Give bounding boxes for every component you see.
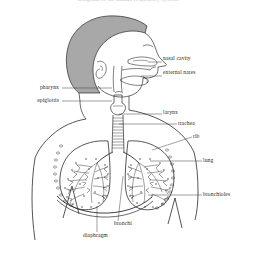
respiratory-system-figure: Diagram of the human respiratory system xyxy=(0,0,256,257)
neck-back-line xyxy=(79,93,86,119)
label-pharynx: pharynx xyxy=(0,85,59,91)
label-bronchi: bronchi xyxy=(114,221,132,227)
label-larynx: larynx xyxy=(163,110,178,116)
nasal-cavity-chamber xyxy=(128,57,157,66)
nasal-cavity-turbinate xyxy=(133,60,148,61)
left-shoulder-outline xyxy=(35,119,86,158)
hair-shape xyxy=(66,16,147,93)
leader-rib xyxy=(152,137,192,150)
label-epiglottis: epiglottis xyxy=(0,98,59,104)
label-nasal-cavity: nasal cavity xyxy=(163,56,191,62)
left-arm-outer-line xyxy=(32,158,35,240)
left-lung-outline xyxy=(60,141,110,210)
label-bronchioles: bronchioles xyxy=(203,192,230,198)
eyebrow-line xyxy=(143,45,153,47)
leader-bronchi xyxy=(118,176,123,221)
label-diaphragm: diaphragm xyxy=(83,233,108,239)
label-rib: rib xyxy=(193,134,200,140)
anatomy-illustration xyxy=(0,0,256,257)
pharynx-cavity xyxy=(113,66,122,92)
right-bronchial-tree xyxy=(128,163,170,203)
right-arm-outer-line xyxy=(194,152,198,220)
nostril-line xyxy=(150,67,156,70)
larynx-shape xyxy=(111,95,126,115)
left-primary-bronchus xyxy=(97,152,113,163)
ear-shape xyxy=(96,61,106,78)
trachea-cartilage-rings xyxy=(112,118,124,148)
label-external-nares: external nares xyxy=(163,70,196,76)
right-armpit-notch xyxy=(168,198,182,228)
ear-inner-line xyxy=(100,66,102,71)
right-primary-bronchus xyxy=(123,152,139,163)
label-lung: lung xyxy=(203,158,213,164)
right-shoulder-outline xyxy=(129,110,194,152)
trachea-tube xyxy=(112,115,124,152)
label-trachea: trachea xyxy=(178,121,195,127)
left-bronchial-tree xyxy=(66,163,108,203)
hard-palate-line xyxy=(122,69,150,71)
